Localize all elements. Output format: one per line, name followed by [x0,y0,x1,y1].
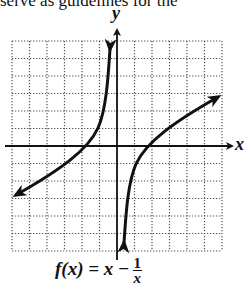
caption-lhs: f(x) = x − [55,258,130,279]
fraction-denominator: x [133,271,143,285]
x-axis-label: x [235,134,244,155]
y-axis-label: y [112,3,120,24]
function-graph [0,0,250,292]
fraction-numerator: 1 [133,256,143,271]
function-caption: f(x) = x −1x [55,256,142,285]
fraction: 1x [133,256,143,285]
